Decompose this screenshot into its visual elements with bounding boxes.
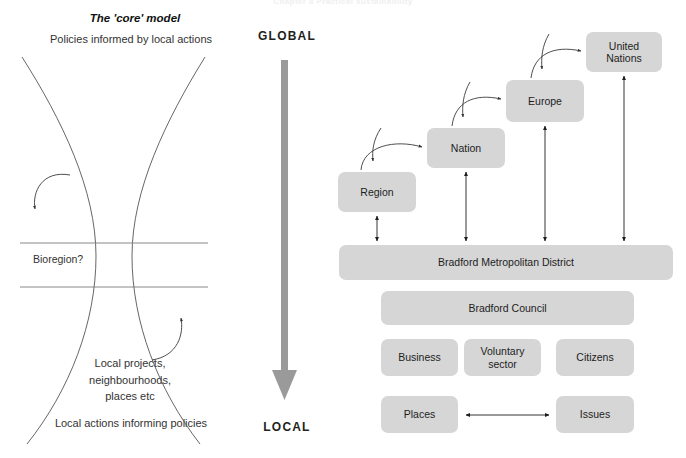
node-issues[interactable]: Issues [556, 396, 634, 433]
bioregion-band [20, 243, 208, 287]
link-nation-to-europe [452, 97, 501, 126]
node-nation[interactable]: Nation [427, 128, 505, 168]
node-voluntary-sector-line-2: sector [488, 358, 517, 371]
link-nation-to-region [373, 128, 381, 161]
axis-label-global: GLOBAL [222, 29, 352, 43]
diagram-page: Chapter 8 Practical sustainability The '… [0, 0, 686, 458]
node-places[interactable]: Places [381, 396, 458, 433]
node-bradford-metropolitan-district[interactable]: Bradford Metropolitan District [339, 245, 673, 280]
node-voluntary-sector[interactable]: Voluntary sector [464, 339, 541, 376]
node-citizens[interactable]: Citizens [556, 339, 634, 376]
running-head: Chapter 8 Practical sustainability [0, 0, 686, 6]
policies-down-arrow [34, 174, 70, 209]
global-to-local-arrow [272, 60, 297, 400]
axis-label-local: LOCAL [222, 420, 352, 434]
link-europe-to-united-nations [531, 49, 581, 78]
node-europe[interactable]: Europe [506, 80, 584, 122]
bioregion-label: Bioregion? [33, 253, 83, 265]
local-activities-line-3: places etc [50, 388, 210, 405]
link-region-to-nation [361, 144, 422, 170]
node-region[interactable]: Region [338, 172, 416, 212]
local-activities-line-1: Local projects, [50, 355, 210, 372]
link-europe-to-nation [463, 82, 470, 117]
node-bradford-council[interactable]: Bradford Council [381, 291, 634, 325]
node-voluntary-sector-line-1: Voluntary [481, 345, 525, 358]
local-actions-up-arrow [152, 318, 182, 360]
node-united-nations[interactable]: United Nations [586, 32, 662, 72]
link-united-nations-to-europe [542, 34, 549, 69]
node-business[interactable]: Business [381, 339, 458, 376]
left-panel-title: The 'core' model [0, 12, 270, 24]
local-activities-line-2: neighbourhoods, [50, 372, 210, 389]
local-activities-label: Local projects, neighbourhoods, places e… [50, 355, 210, 405]
